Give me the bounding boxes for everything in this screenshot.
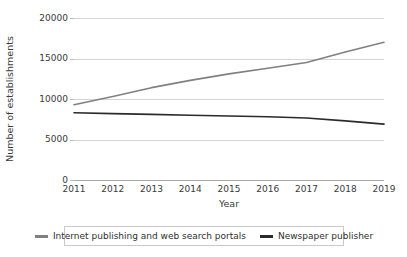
y-axis-tick-mark — [70, 18, 74, 19]
legend-swatch-icon — [260, 235, 273, 238]
legend-label: Internet publishing and web search porta… — [53, 231, 246, 241]
x-axis-tick-label: 2016 — [248, 184, 288, 195]
series-lines — [74, 18, 384, 180]
line-chart: Number of establishments 050001000015000… — [0, 0, 407, 257]
legend-swatch-icon — [35, 235, 48, 238]
y-axis-tick-mark — [70, 99, 74, 100]
y-axis-tick-labels: 05000100001500020000 — [26, 0, 68, 200]
y-axis-title-text: Number of establishments — [4, 24, 15, 174]
chart-legend: Internet publishing and web search porta… — [64, 226, 344, 246]
series-line — [74, 42, 384, 104]
x-axis-tick-label: 2018 — [325, 184, 365, 195]
y-axis-title: Number of establishments — [4, 0, 18, 24]
x-axis-tick-labels: 201120122013201420152016201720182019 — [74, 184, 384, 198]
legend-item-newspaper-publisher[interactable]: Newspaper publisher — [260, 231, 373, 241]
x-axis-tick-label: 2014 — [170, 184, 210, 195]
legend-label: Newspaper publisher — [278, 231, 373, 241]
plot-area — [74, 18, 384, 180]
y-axis-tick-label: 15000 — [26, 54, 68, 63]
x-axis-tick-label: 2017 — [287, 184, 327, 195]
y-axis-tick-label: 10000 — [26, 95, 68, 104]
y-axis-tick-label: 20000 — [26, 14, 68, 23]
legend-item-internet-publishing[interactable]: Internet publishing and web search porta… — [35, 231, 246, 241]
y-axis-tick-mark — [70, 59, 74, 60]
y-axis-tick-label: 5000 — [26, 135, 68, 144]
y-axis-tick-mark — [70, 140, 74, 141]
series-line — [74, 113, 384, 124]
x-axis-tick-label: 2015 — [209, 184, 249, 195]
x-axis-line — [70, 180, 384, 181]
y-axis-tick-mark — [70, 180, 74, 181]
x-axis-tick-label: 2012 — [93, 184, 133, 195]
x-axis-tick-label: 2013 — [132, 184, 172, 195]
x-axis-tick-label: 2019 — [364, 184, 404, 195]
x-axis-title: Year — [74, 198, 384, 209]
x-axis-tick-label: 2011 — [54, 184, 94, 195]
